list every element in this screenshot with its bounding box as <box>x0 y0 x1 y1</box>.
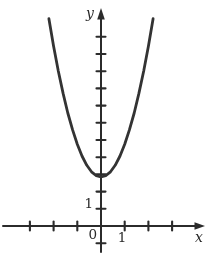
y-axis <box>97 8 106 252</box>
x-tick-label-1: 1 <box>118 229 127 245</box>
x-axis-label: x <box>195 229 203 245</box>
function-graph-figure: y x 0 1 1 <box>0 0 217 263</box>
y-tick-label-1: 1 <box>84 195 93 211</box>
graph-canvas: y x 0 1 1 <box>0 0 217 263</box>
x-axis <box>3 222 205 231</box>
origin-label: 0 <box>88 226 97 242</box>
y-axis-label: y <box>85 5 95 21</box>
y-axis-arrowhead <box>97 8 105 20</box>
